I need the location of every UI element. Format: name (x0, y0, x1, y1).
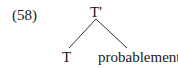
tree-left-node: T (62, 50, 71, 65)
left-branch (69, 19, 96, 48)
right-branch (96, 19, 127, 48)
tree-right-node: probablement (98, 50, 178, 65)
